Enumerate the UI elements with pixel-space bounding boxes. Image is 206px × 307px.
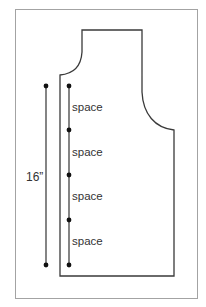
measurement-label: 16” [26,171,43,183]
spacing-marker-2 [67,128,72,133]
segment-label-3: space [72,191,103,203]
segment-label-4: space [72,236,103,248]
spacing-marker-5 [67,263,72,268]
total-length-bottom-marker [44,263,49,268]
spacing-marker-1 [67,84,72,89]
segment-label-2: space [72,147,103,159]
spacing-marker-3 [67,173,72,178]
spacing-marker-4 [67,218,72,223]
pattern-diagram [0,0,206,307]
total-length-top-marker [44,84,49,89]
segment-label-1: space [72,102,103,114]
